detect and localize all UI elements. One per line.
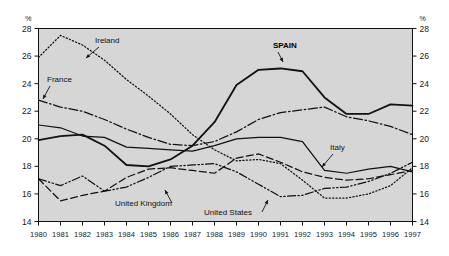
y-tick-label-right: 16 bbox=[420, 189, 430, 199]
x-tick-label: 1995 bbox=[360, 230, 377, 239]
x-tick-label: 1994 bbox=[338, 230, 355, 239]
y-tick-label-left: 14 bbox=[22, 217, 32, 227]
x-tick-label: 1987 bbox=[184, 230, 201, 239]
y-tick-label-left: 18 bbox=[22, 161, 32, 171]
y-tick-label-right: 22 bbox=[420, 106, 430, 116]
x-tick-label: 1988 bbox=[206, 230, 223, 239]
y-tick-label-right: 18 bbox=[420, 161, 430, 171]
x-tick-label: 1997 bbox=[404, 230, 421, 239]
x-tick-label: 1993 bbox=[316, 230, 333, 239]
x-tick-label: 1991 bbox=[272, 230, 289, 239]
y-tick-label-right: 28 bbox=[420, 24, 430, 34]
y-tick-label-right: 14 bbox=[420, 217, 430, 227]
y-tick-label-right: 20 bbox=[420, 134, 430, 144]
y-tick-label-left: 20 bbox=[22, 134, 32, 144]
line-chart: 14141616181820202222242426262828%%198019… bbox=[0, 0, 449, 256]
annotation-label-ireland: Ireland bbox=[95, 36, 119, 45]
x-tick-label: 1985 bbox=[140, 230, 157, 239]
annotation-label-france: France bbox=[47, 75, 72, 84]
annotation-label-united-states: United States bbox=[204, 208, 252, 217]
x-tick-label: 1981 bbox=[52, 230, 69, 239]
x-tick-label: 1996 bbox=[382, 230, 399, 239]
y-axis-unit-right: % bbox=[420, 15, 426, 22]
y-tick-label-left: 16 bbox=[22, 189, 32, 199]
x-tick-label: 1982 bbox=[74, 230, 91, 239]
y-tick-label-right: 24 bbox=[420, 79, 430, 89]
x-tick-label: 1992 bbox=[294, 230, 311, 239]
annotation-label-spain: SPAIN bbox=[273, 41, 297, 50]
x-tick-label: 1984 bbox=[118, 230, 135, 239]
chart-figure: 14141616181820202222242426262828%%198019… bbox=[0, 0, 449, 256]
x-tick-label: 1983 bbox=[96, 230, 113, 239]
y-tick-label-left: 22 bbox=[22, 106, 32, 116]
y-tick-label-left: 24 bbox=[22, 79, 32, 89]
y-axis-unit-left: % bbox=[25, 15, 31, 22]
y-tick-label-left: 28 bbox=[22, 24, 32, 34]
x-tick-label: 1980 bbox=[30, 230, 47, 239]
annotation-label-italy: Italy bbox=[330, 143, 345, 152]
annotation-label-united-kingdom: United Kingdom bbox=[115, 199, 172, 208]
x-tick-label: 1990 bbox=[250, 230, 267, 239]
y-tick-label-right: 26 bbox=[420, 51, 430, 61]
x-tick-label: 1989 bbox=[228, 230, 245, 239]
x-tick-label: 1986 bbox=[162, 230, 179, 239]
y-tick-label-left: 26 bbox=[22, 51, 32, 61]
